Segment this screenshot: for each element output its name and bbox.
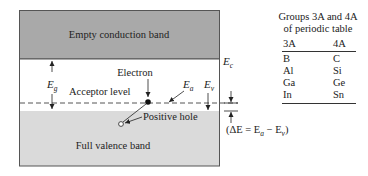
table-cell: Sn: [333, 89, 345, 100]
hole-label: Positive hole: [143, 111, 198, 122]
electron-label: Electron: [117, 67, 153, 78]
hole-circle: [119, 122, 124, 127]
band-diagram: Empty conduction band Full valence band …: [0, 0, 368, 176]
table-cell: Al: [283, 65, 294, 76]
table-cell: B: [283, 53, 290, 64]
table-cell: Ga: [283, 77, 296, 88]
table-title-line1: Groups 3A and 4A: [278, 11, 357, 22]
table-header-3a: 3A: [283, 38, 296, 49]
electron-dot: [145, 99, 151, 105]
table-cell: Ge: [333, 77, 346, 88]
conduction-band-label: Empty conduction band: [69, 29, 170, 40]
acceptor-level-label: Acceptor level: [69, 86, 131, 97]
valence-band-label: Full valence band: [76, 140, 151, 151]
table-cell: In: [283, 89, 292, 100]
table-title-line2: of periodic table: [284, 23, 353, 34]
periodic-table: Groups 3A and 4A of periodic table 3A 4A…: [278, 11, 357, 104]
table-header-4a: 4A: [333, 38, 346, 49]
ec-label: Ec: [222, 55, 234, 70]
delta-e-formula: (ΔE = Ea − Ev): [226, 124, 289, 138]
table-cell: C: [333, 53, 340, 64]
table-cell: Si: [333, 65, 342, 76]
